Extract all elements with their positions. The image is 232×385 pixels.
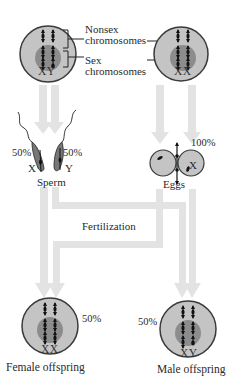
sperm-label: Sperm bbox=[37, 177, 66, 188]
sex-label-2: chromosomes bbox=[85, 66, 146, 77]
sperm-y-percent: 50% bbox=[63, 147, 82, 158]
arrow-head bbox=[46, 122, 64, 134]
arrow-head bbox=[184, 283, 201, 298]
egg-x-label: X bbox=[189, 160, 197, 171]
arrow-sperm-x bbox=[40, 187, 48, 285]
sperm-x-label: X bbox=[28, 163, 36, 174]
inheritance-diagram bbox=[0, 0, 232, 385]
female-offspring-label: Female offspring bbox=[6, 362, 85, 373]
arrows bbox=[34, 85, 201, 298]
arrow-head bbox=[48, 283, 65, 298]
sperm-y-label: Y bbox=[65, 163, 73, 174]
arrow-egg-1 bbox=[156, 189, 163, 248]
arrow-shaft bbox=[188, 85, 196, 135]
parent-female-chromosome-label: XX bbox=[174, 66, 192, 77]
arrow-egg-2 bbox=[189, 189, 196, 285]
arrow-shaft bbox=[156, 85, 164, 135]
fertilization-label: Fertilization bbox=[82, 221, 136, 232]
male-offspring-percent: 50% bbox=[138, 316, 157, 327]
female-offspring-percent: 50% bbox=[82, 313, 101, 324]
male-offspring-label: Male offspring bbox=[157, 364, 225, 375]
sperm-x-percent: 50% bbox=[12, 147, 31, 158]
arrow-shaft bbox=[51, 85, 59, 125]
arrow-head bbox=[151, 132, 169, 144]
eggs-percent: 100% bbox=[191, 137, 216, 148]
eggs-label: Eggs bbox=[163, 179, 185, 190]
arrow-shaft bbox=[39, 85, 47, 125]
parent-male-chromosome-label: XY bbox=[38, 66, 56, 77]
female-offspring-chromosomes: XX bbox=[41, 344, 59, 355]
male-offspring-chromosomes: XY bbox=[180, 348, 198, 359]
nonsex-label-2: chromosomes bbox=[85, 35, 146, 46]
